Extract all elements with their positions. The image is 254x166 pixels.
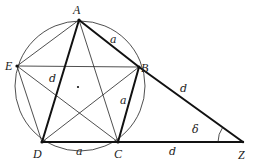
label-C: C [114, 147, 123, 161]
edge-label-CZ: d [169, 145, 176, 158]
circumcircle [15, 21, 145, 151]
edge-label-DC: a [76, 145, 83, 158]
edge-label-BZ: d [180, 82, 187, 95]
thick-lines [42, 20, 243, 142]
edge-AD [42, 20, 79, 142]
label-B: B [141, 61, 149, 75]
center-dot [77, 86, 79, 88]
edge-label-AB: a [110, 33, 117, 46]
label-E: E [4, 59, 13, 73]
label-A: A [72, 3, 81, 17]
angle-label-delta: δ [192, 123, 199, 136]
edge-BZ [139, 67, 243, 142]
edge-AB [79, 20, 139, 67]
edge-label-BC: a [120, 94, 127, 107]
label-Z: Z [238, 148, 245, 162]
edge-label-AD: d [49, 72, 56, 85]
angle-arc [218, 127, 223, 142]
pentagram-diagram: A B C D E Z a d a a d d δ [0, 0, 254, 166]
label-D: D [32, 147, 42, 161]
